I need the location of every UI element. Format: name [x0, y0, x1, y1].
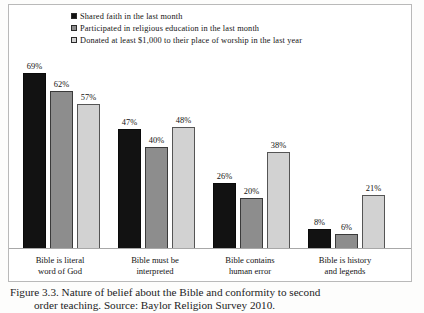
bar-value-label: 38%	[271, 141, 286, 151]
bar-2-2[interactable]	[145, 147, 168, 249]
bar-value-label: 6%	[341, 223, 352, 233]
bar-2-3[interactable]	[172, 127, 195, 249]
chart-legend: Shared faith in the last month Participa…	[71, 11, 401, 47]
legend-swatch-light	[71, 37, 77, 43]
figure-caption-line-1: Figure 3.3. Nature of belief about the B…	[10, 286, 320, 298]
x-axis-label-4: Bible is historyand legends	[295, 255, 395, 277]
bar-3-2[interactable]	[240, 198, 263, 249]
legend-label-religious-education: Participated in religious education in t…	[80, 23, 259, 34]
bar-1-2[interactable]	[50, 91, 73, 249]
x-axis-label-line: Bible must be	[105, 255, 205, 266]
x-axis-label-line: interpreted	[105, 266, 205, 277]
x-axis-label-line: word of God	[10, 266, 110, 277]
bar-slot: 69%	[23, 45, 46, 249]
bar-slot: 62%	[50, 45, 73, 249]
legend-item-shared-faith: Shared faith in the last month	[71, 11, 401, 22]
bar-value-label: 40%	[149, 136, 164, 146]
bar-4-3[interactable]	[362, 195, 385, 249]
bar-slot: 8%	[308, 45, 331, 249]
x-axis-label-line: Bible is literal	[10, 255, 110, 266]
bar-group-1: 69%62%57%	[23, 45, 107, 249]
chart-x-axis-labels: Bible is literalword of GodBible must be…	[9, 255, 411, 281]
bar-value-label: 47%	[122, 118, 137, 128]
bar-slot: 21%	[362, 45, 385, 249]
bar-slot: 47%	[118, 45, 141, 249]
bar-group-2: 47%40%48%	[118, 45, 202, 249]
bar-slot: 40%	[145, 45, 168, 249]
bar-group-4: 8%6%21%	[308, 45, 392, 249]
bar-value-label: 8%	[314, 218, 325, 228]
bar-4-1[interactable]	[308, 229, 331, 249]
chart-baseline-axis	[9, 248, 411, 249]
bar-slot: 38%	[267, 45, 290, 249]
bar-slot: 6%	[335, 45, 358, 249]
x-axis-label-line: Bible contains	[200, 255, 300, 266]
legend-label-shared-faith: Shared faith in the last month	[80, 11, 182, 22]
bar-value-label: 20%	[244, 187, 259, 197]
bar-3-1[interactable]	[213, 183, 236, 249]
bar-value-label: 26%	[217, 172, 232, 182]
x-axis-label-line: Bible is history	[295, 255, 395, 266]
bar-slot: 48%	[172, 45, 195, 249]
bar-value-label: 62%	[54, 80, 69, 90]
document-page: Shared faith in the last month Participa…	[0, 0, 424, 313]
bar-value-label: 69%	[27, 62, 42, 72]
bar-slot: 26%	[213, 45, 236, 249]
bar-4-2[interactable]	[335, 234, 358, 249]
x-axis-label-1: Bible is literalword of God	[10, 255, 110, 277]
x-axis-label-3: Bible containshuman error	[200, 255, 300, 277]
bar-value-label: 57%	[81, 93, 96, 103]
bar-value-label: 21%	[366, 184, 381, 194]
bar-1-1[interactable]	[23, 73, 46, 249]
x-axis-label-line: human error	[200, 266, 300, 277]
legend-swatch-black	[71, 13, 77, 19]
legend-swatch-gray	[71, 25, 77, 31]
bar-1-3[interactable]	[77, 104, 100, 249]
bar-slot: 57%	[77, 45, 100, 249]
bar-value-label: 48%	[176, 116, 191, 126]
legend-item-religious-education: Participated in religious education in t…	[71, 23, 401, 34]
bar-3-3[interactable]	[267, 152, 290, 249]
x-axis-label-line: and legends	[295, 266, 395, 277]
bar-group-3: 26%20%38%	[213, 45, 297, 249]
x-axis-label-2: Bible must beinterpreted	[105, 255, 205, 277]
figure-caption-line-2: order teaching. Source: Baylor Religion …	[34, 299, 420, 312]
chart-plot-area: 69%62%57%47%40%48%26%20%38%8%6%21%	[9, 45, 411, 249]
bar-slot: 20%	[240, 45, 263, 249]
figure-caption: Figure 3.3. Nature of belief about the B…	[10, 286, 420, 312]
figure-chart-frame: Shared faith in the last month Participa…	[8, 4, 412, 282]
bar-2-1[interactable]	[118, 129, 141, 249]
